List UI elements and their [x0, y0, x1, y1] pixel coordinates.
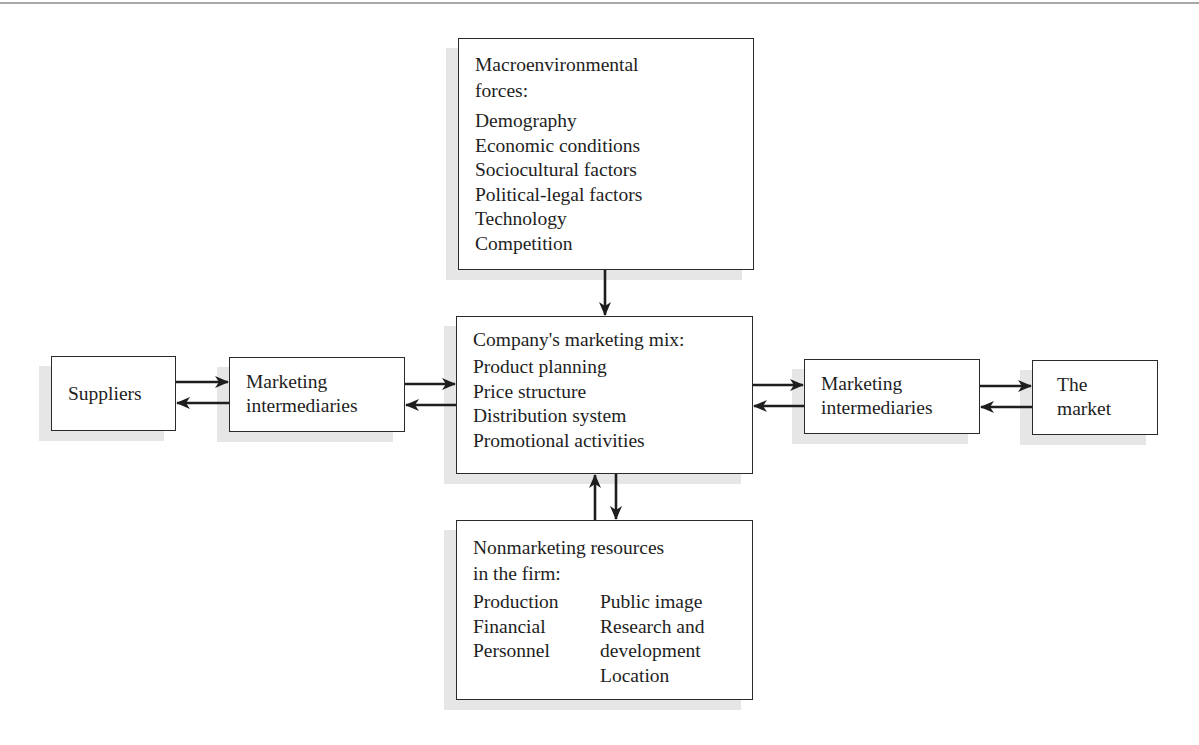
connector-arrows — [0, 0, 1199, 745]
